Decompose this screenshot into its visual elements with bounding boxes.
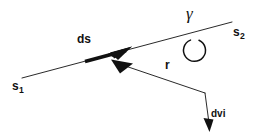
label-dvi: dvi xyxy=(211,109,225,119)
vector-diagram-figure: s1 s2 ds r dvi γ xyxy=(0,0,258,138)
label-s2-subscript: 2 xyxy=(240,31,245,41)
label-s2-base: s xyxy=(233,25,240,39)
label-s1: s1 xyxy=(12,80,23,92)
gamma-arc xyxy=(184,40,206,61)
label-gamma: γ xyxy=(186,5,193,22)
label-r: r xyxy=(165,59,170,71)
label-s1-subscript: 1 xyxy=(19,85,24,95)
label-s2: s2 xyxy=(233,26,244,38)
dvi-arrowhead xyxy=(204,118,214,132)
label-s1-base: s xyxy=(12,79,19,93)
r-vector-line xyxy=(118,64,205,94)
label-ds: ds xyxy=(77,33,91,45)
r-arrowhead xyxy=(111,60,133,74)
ds-arrowhead-body xyxy=(110,47,132,61)
